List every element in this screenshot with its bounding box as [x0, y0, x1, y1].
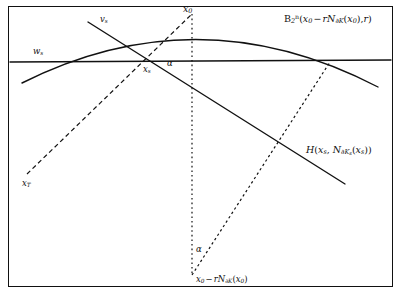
hyperplane-label-normal-sub-base: ∂K: [341, 148, 349, 156]
angle-label-alpha-bottom: α: [196, 245, 202, 254]
ball-label-normal-sub: ∂K: [335, 17, 343, 25]
point-label-vs: vs: [100, 15, 108, 25]
point-label-vs-sub: s: [105, 18, 108, 24]
hyperplane-label-comma: ,: [327, 144, 330, 155]
hyperplane-label-normal: N: [333, 144, 341, 155]
hyperplane-label-normal-sub: ∂Ks: [341, 148, 352, 156]
dashed-segment-xT-to-x0: [27, 14, 192, 174]
ball-label: B2n(x0−rN∂K(x0),r): [284, 14, 372, 25]
diagram-canvas: B2n(x0−rN∂K(x0),r) H(xs, N∂Ks(xs)) x0 vs…: [0, 0, 401, 294]
center-point-label: x0−rN∂K(x0): [196, 275, 248, 285]
center-label-normal-close: ): [244, 274, 247, 284]
point-label-x0-sub: 0: [188, 7, 192, 15]
point-label-ws-sub: s: [40, 50, 43, 56]
point-label-xT: xT: [22, 179, 31, 189]
angle-label-alpha-top: α: [167, 59, 173, 68]
point-label-x0: x0: [183, 4, 192, 15]
hyperplane-label-close-paren: ): [368, 144, 372, 155]
point-label-xs: xs: [143, 65, 151, 75]
center-label-minus: −: [204, 274, 213, 284]
ball-label-base: B: [284, 13, 291, 24]
hyperplane-horizontal-line: [10, 60, 391, 62]
dotted-ray-to-arc: [192, 62, 330, 275]
point-label-xT-sub: T: [27, 182, 31, 188]
ball-label-minus: −: [312, 13, 322, 24]
ball-boundary-arc: [22, 39, 378, 87]
point-label-xs-sub: s: [148, 68, 151, 74]
ball-label-close-paren: ): [368, 13, 372, 24]
point-label-ws: ws: [33, 47, 43, 57]
tangent-hyperplane-line: [88, 22, 345, 184]
hyperplane-label: H(xs, N∂Ks(xs)): [306, 145, 372, 157]
